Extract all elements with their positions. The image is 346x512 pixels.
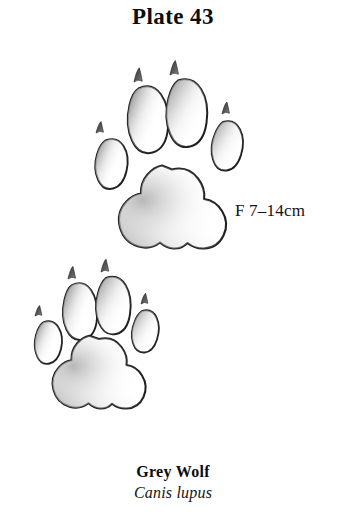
track-drawing-svg xyxy=(0,0,346,512)
wolf-track-illustration: F 7–14cm xyxy=(0,0,346,512)
measurement-label: F 7–14cm xyxy=(235,201,305,221)
toe-pad xyxy=(95,139,128,189)
claw-mark-icon xyxy=(96,122,103,133)
claw-mark-icon xyxy=(68,266,76,279)
toe-pad xyxy=(132,310,159,352)
claw-mark-icon xyxy=(35,306,42,317)
toe-pad xyxy=(35,321,62,364)
front-track xyxy=(95,61,243,249)
species-common-name: Grey Wolf xyxy=(0,463,346,481)
toe-pad xyxy=(166,79,207,147)
toe-pad xyxy=(63,283,97,340)
plate-page: Plate 43 xyxy=(0,0,346,512)
claw-mark-icon xyxy=(141,293,148,304)
main-pad xyxy=(53,336,146,409)
claw-mark-icon xyxy=(222,102,229,114)
main-pad xyxy=(119,166,226,249)
claw-mark-icon xyxy=(134,68,142,82)
toe-pad xyxy=(212,121,243,170)
caption: Grey Wolf Canis lupus xyxy=(0,463,346,502)
toe-pad xyxy=(128,86,169,153)
claw-mark-icon xyxy=(170,61,178,75)
toe-pad xyxy=(96,277,131,335)
hind-track xyxy=(35,259,159,408)
species-scientific-name: Canis lupus xyxy=(0,483,346,502)
claw-mark-icon xyxy=(101,259,109,272)
